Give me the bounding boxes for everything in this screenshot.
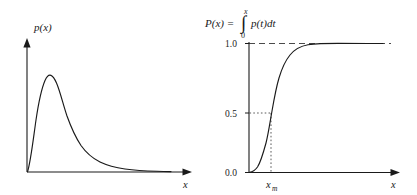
cdf-title-formula: P(x) = ∫ x 0 p(t)dt bbox=[204, 7, 276, 40]
cdf-ytick-label-1: 1.0 bbox=[225, 39, 237, 49]
cdf-median-label: x m bbox=[265, 179, 278, 193]
pdf-y-axis-label: p(x) bbox=[33, 21, 52, 34]
pdf-x-axis-label: x bbox=[182, 179, 188, 190]
cdf-x-axis-label: x bbox=[390, 179, 396, 190]
cdf-median-label-subscript: m bbox=[272, 184, 278, 193]
pdf-x-axis-arrow-icon bbox=[183, 168, 193, 175]
figure-container: p(x) x P(x) = ∫ x 0 p(t)dt bbox=[0, 0, 417, 195]
cdf-median-label-base: x bbox=[265, 179, 271, 190]
cdf-title-integrand: p(t)dt bbox=[250, 17, 276, 30]
integral-upper-limit: x bbox=[243, 7, 248, 16]
cdf-y-axis bbox=[245, 42, 249, 173]
cdf-ytick-label-05: 0.5 bbox=[225, 109, 237, 119]
cdf-curve bbox=[250, 43, 384, 172]
cdf-title-lhs: P(x) = bbox=[204, 17, 234, 30]
pdf-y-axis-arrow-icon bbox=[23, 38, 30, 48]
pdf-curve bbox=[28, 75, 172, 172]
integral-lower-limit: 0 bbox=[241, 31, 245, 40]
probability-density-panel: p(x) x bbox=[0, 0, 209, 195]
cdf-ytick-label-0: 0.0 bbox=[225, 168, 237, 178]
pdf-plot-svg: p(x) x bbox=[0, 0, 209, 195]
pdf-y-axis bbox=[23, 38, 30, 172]
cdf-x-axis-arrow-icon bbox=[391, 169, 401, 176]
cdf-plot-svg: P(x) = ∫ x 0 p(t)dt bbox=[200, 0, 417, 195]
cumulative-distribution-panel: P(x) = ∫ x 0 p(t)dt bbox=[200, 0, 417, 195]
cdf-x-axis bbox=[249, 169, 400, 176]
